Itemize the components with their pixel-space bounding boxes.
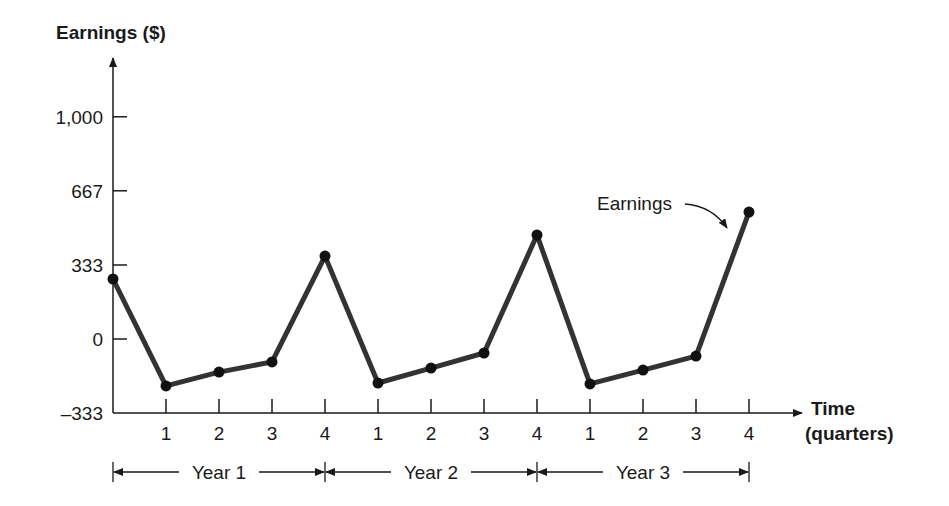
data-point-marker [426, 363, 437, 374]
y-tick-label: 0 [92, 329, 103, 350]
x-tick-label: 2 [214, 423, 225, 444]
earnings-series-markers [108, 207, 755, 392]
x-tick-label: 4 [532, 423, 543, 444]
x-tick-label: 1 [161, 423, 172, 444]
data-point-marker [320, 251, 331, 262]
y-tick-label: 333 [71, 255, 103, 276]
annotation-arrow-icon [685, 204, 727, 228]
data-point-marker [744, 207, 755, 218]
data-point-marker [161, 380, 172, 391]
data-point-marker [108, 274, 119, 285]
x-tick-label: 3 [267, 423, 278, 444]
x-tick-label: 3 [479, 423, 490, 444]
data-point-marker [373, 378, 384, 389]
x-tick-label: 1 [585, 423, 596, 444]
data-point-marker [691, 351, 702, 362]
y-axis-title: Earnings ($) [56, 22, 166, 43]
x-tick-label: 3 [691, 423, 702, 444]
earnings-line-chart: Earnings ($) –33303336671,000 1234123412… [0, 0, 949, 506]
data-point-marker [479, 348, 490, 359]
year-label: Year 1 [192, 462, 246, 483]
data-point-marker [267, 356, 278, 367]
y-tick-label: –333 [61, 403, 103, 424]
earnings-series-line [113, 212, 749, 386]
year-label: Year 3 [616, 462, 670, 483]
x-tick-label: 4 [320, 423, 331, 444]
data-point-marker [532, 230, 543, 241]
x-tick-label: 1 [373, 423, 384, 444]
x-tick-label: 2 [638, 423, 649, 444]
data-point-marker [638, 365, 649, 376]
x-ticks: 123412341234 [161, 399, 755, 444]
y-tick-label: 1,000 [55, 107, 103, 128]
x-axis-title-line2: (quarters) [805, 423, 894, 444]
x-tick-label: 2 [426, 423, 437, 444]
data-point-marker [214, 367, 225, 378]
y-ticks: –33303336671,000 [55, 107, 127, 424]
year-label: Year 2 [404, 462, 458, 483]
x-tick-label: 4 [744, 423, 755, 444]
y-tick-label: 667 [71, 181, 103, 202]
x-axis-title-line1: Time [811, 398, 855, 419]
earnings-annotation-label: Earnings [597, 193, 672, 214]
year-brackets: Year 1Year 2Year 3 [113, 462, 749, 483]
data-point-marker [585, 378, 596, 389]
